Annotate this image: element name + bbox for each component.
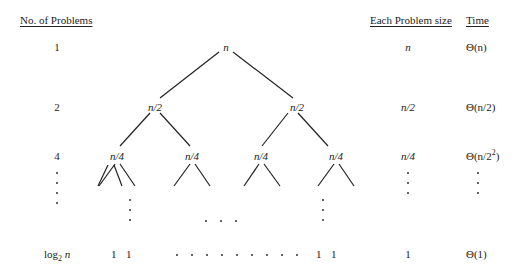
ellipsis-time (477, 172, 479, 202)
tree-node-l2-1: n/4 (110, 150, 124, 162)
row3-num-problems: 4 (54, 150, 60, 162)
row1-time: Θ(n) (466, 41, 487, 53)
tree-root-node: n (223, 41, 229, 53)
ellipsis-problem-size (407, 172, 409, 202)
row3-time-close: ) (496, 150, 500, 162)
tree-node-l2-2: n/4 (185, 150, 199, 162)
tree-node-l1-right: n/2 (290, 101, 304, 113)
row1-num-problems: 1 (54, 41, 60, 53)
row4-problem-size: 1 (405, 248, 411, 260)
row2-num-problems: 2 (54, 101, 60, 113)
log-variable: n (62, 248, 70, 260)
tree-node-l2-4: n/4 (329, 150, 343, 162)
ellipsis-tree-left (129, 199, 131, 229)
row1-problem-size: n (405, 41, 411, 53)
leaf-right-2: 1 (331, 248, 337, 260)
row4-time: Θ(1) (466, 248, 487, 260)
row4-num-problems: log2 n (44, 248, 70, 260)
leaf-left-1: 1 (111, 248, 117, 260)
ellipsis-num-problems (56, 172, 58, 212)
tree-node-l2-3: n/4 (254, 150, 268, 162)
recursion-tree-edges (0, 0, 521, 276)
tree-node-l1-left: n/2 (148, 101, 162, 113)
leaf-right-1: 1 (316, 248, 322, 260)
log-label: log (44, 248, 58, 260)
row2-time: Θ(n/2) (466, 101, 495, 113)
leaf-left-2: 1 (126, 248, 132, 260)
row3-time: Θ(n/22) (466, 150, 499, 162)
row3-time-base: Θ(n/2 (466, 150, 492, 162)
ellipsis-tree-right (322, 199, 324, 229)
ellipsis-tree-middle (205, 220, 237, 222)
row2-problem-size: n/2 (401, 101, 415, 113)
ellipsis-leaves (176, 254, 298, 256)
row3-problem-size: n/4 (401, 150, 415, 162)
